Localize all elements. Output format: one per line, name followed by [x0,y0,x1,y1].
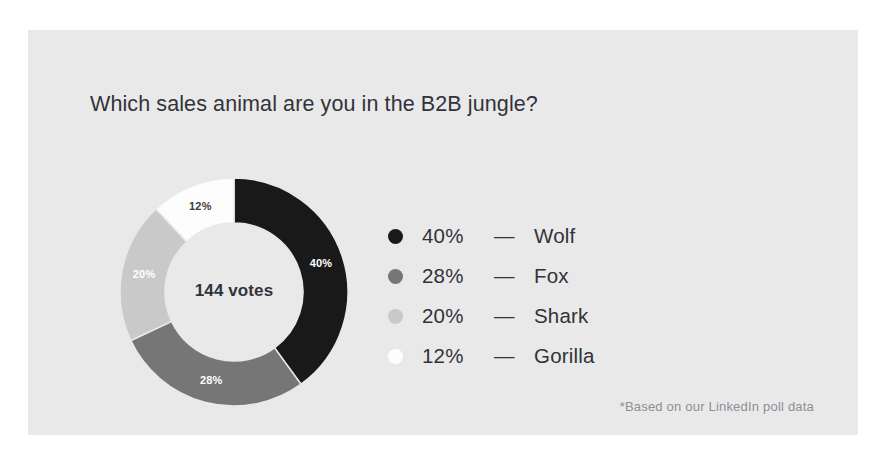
screenshot-root: Which sales animal are you in the B2B ju… [0,0,887,458]
legend-swatch-icon [388,349,403,364]
donut-slice-label-wolf: 40% [310,257,333,269]
legend-item-gorilla[interactable]: 12%—Gorilla [388,336,708,376]
legend-dash: — [494,344,534,368]
legend-item-fox[interactable]: 28%—Fox [388,256,708,296]
legend: 40%—Wolf28%—Fox20%—Shark12%—Gorilla [388,216,708,376]
legend-percent: 12% [422,344,494,368]
legend-swatch-icon [388,269,403,284]
page-title: Which sales animal are you in the B2B ju… [90,92,538,117]
legend-dash: — [494,224,534,248]
legend-swatch-icon [388,309,403,324]
donut-chart: 40%28%20%12% 144 votes [94,152,374,432]
legend-item-shark[interactable]: 20%—Shark [388,296,708,336]
legend-item-wolf[interactable]: 40%—Wolf [388,216,708,256]
legend-dash: — [494,264,534,288]
donut-center-total: 144 votes [195,281,273,300]
donut-slice-label-gorilla: 12% [189,200,212,212]
legend-label: Gorilla [534,344,595,368]
legend-percent: 28% [422,264,494,288]
legend-percent: 40% [422,224,494,248]
donut-slice-label-shark: 20% [133,268,156,280]
legend-label: Shark [534,304,589,328]
donut-chart-svg: 40%28%20%12% 144 votes [94,152,374,432]
donut-slice-label-fox: 28% [200,374,223,386]
legend-dash: — [494,304,534,328]
donut-slice-fox[interactable] [131,321,301,406]
legend-label: Fox [534,264,569,288]
legend-label: Wolf [534,224,575,248]
footnote: *Based on our LinkedIn poll data [620,399,814,414]
legend-swatch-icon [388,229,403,244]
poll-card: Which sales animal are you in the B2B ju… [28,30,858,435]
legend-percent: 20% [422,304,494,328]
